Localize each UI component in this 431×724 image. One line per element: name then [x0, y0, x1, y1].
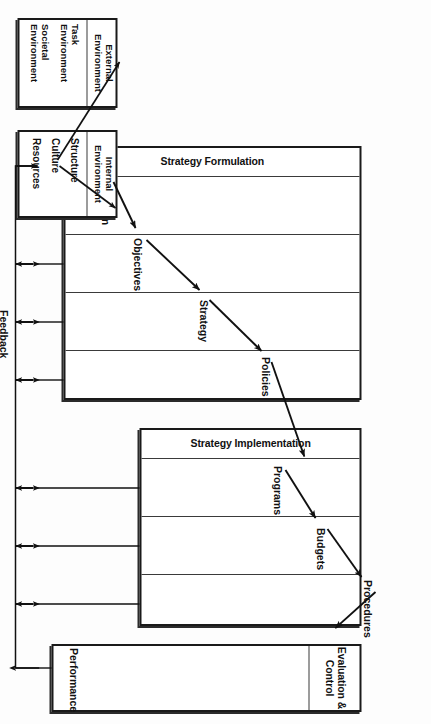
input-item-structure: Structure: [68, 138, 79, 182]
input-title-external-environment: External Environment: [91, 18, 113, 108]
ext-title-separator: [86, 20, 87, 106]
step-label-strategy: Strategy: [197, 300, 209, 342]
step-label-objectives: Objectives: [131, 238, 143, 291]
sf-step-divider-2: [65, 292, 359, 293]
feedback-label: Feedback: [0, 310, 9, 358]
step-label-performance: Performance: [67, 648, 79, 712]
sf-step-divider-3: [65, 350, 359, 351]
input-item-resources: Resources: [30, 138, 41, 189]
step-label-budgets: Budgets: [314, 528, 326, 570]
step-label-programs: Programs: [271, 466, 283, 515]
phase-title-strategy-implementation: Strategy Implementation: [139, 428, 361, 458]
int-title-separator: [86, 132, 87, 216]
figure-canvas: Strategy Formulation Mission Objectives …: [0, 0, 431, 724]
si-step-divider-1: [141, 516, 359, 517]
si-title-separator: [141, 458, 359, 459]
input-item-task-environment: Task Environment: [57, 24, 79, 100]
step-label-policies: Policies: [259, 357, 271, 397]
input-title-internal-environment: Internal Environment: [91, 130, 113, 218]
feedback-loop: [15, 166, 39, 668]
sf-step-divider-1: [65, 234, 359, 235]
step-label-procedures: Procedures: [361, 580, 373, 638]
input-item-societal-environment: Societal Environment: [27, 24, 49, 100]
si-step-divider-2: [141, 574, 359, 575]
diagram-stage: Strategy Formulation Mission Objectives …: [0, 0, 431, 724]
phase-title-evaluation-control: Evaluation & Control: [309, 644, 361, 712]
input-item-culture: Culture: [49, 138, 60, 173]
